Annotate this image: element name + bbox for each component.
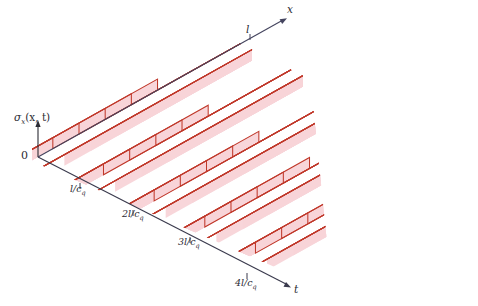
x-axis-tick-label-l: l — [246, 24, 249, 35]
characteristic-line — [236, 154, 454, 276]
t-tick-label-2: 2l/cq — [122, 209, 144, 221]
t-tick-label-1: l/cq — [70, 184, 86, 196]
t-tick-3-sub: q — [196, 242, 200, 250]
plateau-band — [321, 128, 404, 185]
stress-characteristic-plot — [0, 0, 478, 306]
plateau-band — [372, 154, 455, 211]
vertical-axis-label: σx(x, t) — [14, 112, 50, 125]
t-tick-label-3: 3l/cq — [178, 237, 200, 249]
characteristic-line — [186, 128, 404, 250]
t-tick-1-sub: q — [82, 189, 86, 197]
t-tick-4-sub: q — [253, 283, 257, 291]
t-tick-4-main: l/c — [241, 277, 253, 288]
figure-canvas: σx(x, t) 0 x l t l/cq 2l/cq 3l/cq 4l/cq — [0, 0, 478, 306]
t-tick-label-4: 4l/cq — [235, 278, 257, 290]
pink-bands-layer — [22, 50, 454, 271]
sigma-args: (x, t) — [25, 111, 50, 123]
x-axis-arrowhead — [280, 18, 287, 24]
x-axis-label: x — [287, 4, 293, 15]
t-tick-1-main: l/c — [70, 183, 82, 194]
plateau-band — [319, 154, 454, 241]
red-characteristic-lines-layer — [22, 44, 454, 277]
t-axis-label: t — [294, 284, 298, 295]
t-tick-3-main: l/c — [184, 236, 196, 247]
origin-label: 0 — [21, 150, 28, 161]
plateau-band — [346, 154, 455, 226]
t-tick-2-main: l/c — [128, 208, 140, 219]
t-tick-2-sub: q — [140, 214, 144, 222]
